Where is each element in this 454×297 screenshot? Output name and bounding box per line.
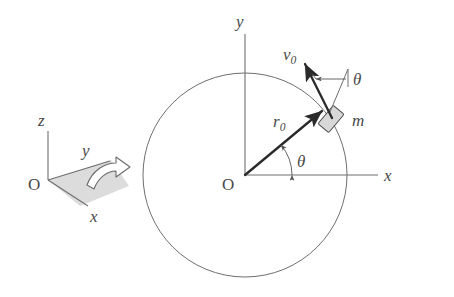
- coordinate-triad-group: z y x O: [28, 111, 130, 226]
- triad-x-label: x: [89, 207, 98, 226]
- figure-root: z y x O: [0, 0, 454, 297]
- polar-angle-arc: [281, 145, 292, 175]
- main-y-label: y: [234, 12, 244, 31]
- velocity-angle-label: θ: [353, 70, 361, 89]
- main-diagram-group: y x O r0 v0 m θ θ: [143, 12, 392, 277]
- velocity-label: v0: [283, 45, 297, 67]
- main-origin-label: O: [222, 175, 234, 194]
- triad-z-label: z: [37, 111, 45, 130]
- polar-angle-label: θ: [297, 152, 305, 171]
- physics-diagram-svg: z y x O: [0, 0, 454, 297]
- velocity-reference-line: [330, 69, 348, 112]
- triad-origin-label: O: [28, 175, 40, 194]
- main-x-label: x: [383, 166, 392, 185]
- velocity-vector-v0: [305, 64, 332, 118]
- radius-label: r0: [273, 112, 286, 134]
- triad-y-label: y: [80, 141, 90, 160]
- mass-label: m: [352, 111, 364, 130]
